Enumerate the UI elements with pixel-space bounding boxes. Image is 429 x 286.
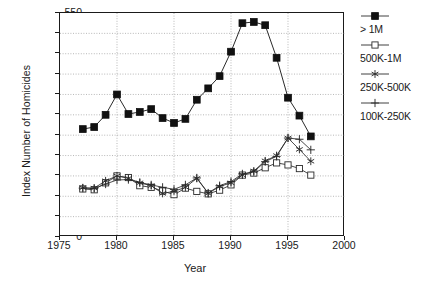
data-point-marker [372, 42, 378, 48]
data-point-marker [171, 120, 178, 127]
data-point-marker [102, 111, 109, 118]
data-point-marker [114, 91, 121, 98]
x-tick-label: 2000 [322, 240, 366, 251]
legend-item-0[interactable] [360, 10, 429, 22]
legend-label: > 1M [360, 23, 429, 36]
x-tick-label: 1985 [151, 240, 195, 251]
series--1m [79, 19, 314, 140]
data-point-marker [148, 106, 155, 113]
data-point-marker [262, 22, 269, 29]
data-point-marker [307, 133, 314, 140]
x-tick-label: 1975 [37, 240, 81, 251]
data-point-marker [205, 85, 212, 92]
data-point-marker [308, 172, 314, 178]
data-point-marker [273, 54, 280, 61]
legend-item-2[interactable] [360, 68, 429, 80]
data-point-marker [182, 115, 189, 122]
x-tick-label: 1990 [208, 240, 252, 251]
legend-label: 250K-500K [360, 81, 429, 94]
legend-marker-open-square [360, 39, 390, 51]
data-point-marker [194, 188, 200, 194]
data-point-marker [159, 115, 166, 122]
data-point-marker [136, 109, 143, 116]
legend-item-3[interactable] [360, 97, 429, 109]
legend-marker-asterisk [360, 68, 390, 80]
legend-label: 100K-250K [360, 110, 429, 123]
data-point-marker [193, 96, 200, 103]
x-tick-label: 1980 [94, 240, 138, 251]
data-point-marker [285, 162, 291, 168]
y-axis-title: Index Number of Homicides [20, 51, 32, 211]
data-point-marker [296, 165, 302, 171]
plot-canvas [60, 13, 345, 237]
data-point-marker [239, 20, 246, 27]
data-point-marker [91, 124, 98, 131]
data-point-marker [125, 111, 132, 118]
x-tick-label: 1995 [265, 240, 309, 251]
legend: > 1M500K-1M250K-500K100K-250K [360, 10, 429, 126]
legend-label: 500K-1M [360, 52, 429, 65]
data-point-marker [372, 13, 379, 20]
data-point-marker [79, 126, 86, 133]
legend-marker-plus [360, 97, 390, 109]
chart-figure: Index Number of Homicides Year 550500450… [0, 0, 429, 286]
data-point-marker [274, 160, 280, 166]
legend-marker-filled-square [360, 10, 390, 22]
data-point-marker [250, 19, 257, 26]
data-point-marker [285, 94, 292, 101]
data-point-marker [216, 73, 223, 80]
data-point-marker [296, 112, 303, 119]
plot-area [59, 12, 344, 236]
legend-item-1[interactable] [360, 39, 429, 51]
x-axis-title: Year [40, 262, 350, 274]
data-point-marker [371, 99, 379, 107]
data-point-marker [228, 48, 235, 55]
